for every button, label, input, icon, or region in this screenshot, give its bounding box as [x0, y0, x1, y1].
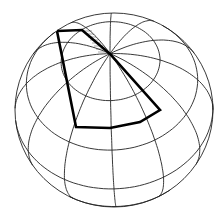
meridian-line — [110, 40, 194, 54]
meridian-line — [110, 54, 116, 207]
parallel-line — [69, 190, 170, 206]
globe-diagram — [0, 0, 222, 215]
meridian-line — [110, 13, 112, 54]
parallel-line — [26, 25, 197, 150]
meridian-line — [28, 54, 110, 166]
graticule-lines — [15, 13, 213, 207]
parallel-line — [16, 104, 213, 189]
meridian-line — [64, 54, 110, 199]
